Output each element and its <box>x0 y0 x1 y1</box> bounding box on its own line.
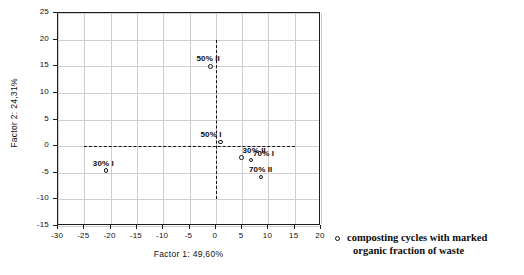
legend-open-circle-icon <box>335 236 340 241</box>
data-point-label: 50% I <box>201 130 222 139</box>
y-tick-label: 20 <box>23 34 49 43</box>
data-points-layer: 50% II50% I30% II70% I70% II30% I <box>58 13 319 224</box>
x-tick-mark <box>110 225 111 229</box>
x-tick-mark <box>189 225 190 229</box>
x-tick-mark <box>267 225 268 229</box>
legend-label-line-2: organic fraction of waste <box>347 245 487 258</box>
data-point <box>104 168 109 173</box>
data-point-label: 50% II <box>197 54 220 63</box>
x-tick-mark <box>215 225 216 229</box>
y-tick-label: -10 <box>23 193 49 202</box>
data-point <box>208 64 213 69</box>
data-point-label: 70% I <box>253 149 274 158</box>
y-tick-label: 0 <box>23 140 49 149</box>
y-tick-label: 15 <box>23 60 49 69</box>
x-tick-mark <box>294 225 295 229</box>
y-tick-mark <box>53 225 57 226</box>
y-axis-title: Factor 2: 24,31% <box>9 48 19 178</box>
y-tick-mark <box>53 65 57 66</box>
y-tick-mark <box>53 198 57 199</box>
legend-label: composting cycles with marked organic fr… <box>347 232 487 257</box>
y-tick-mark <box>53 172 57 173</box>
data-point <box>249 158 254 163</box>
gridline-vertical <box>321 13 322 224</box>
y-tick-mark <box>53 39 57 40</box>
y-tick-label: 25 <box>23 7 49 16</box>
x-tick-label: 20 <box>305 231 335 240</box>
data-point <box>239 155 244 160</box>
x-tick-mark <box>136 225 137 229</box>
data-point-label: 70% II <box>249 165 272 174</box>
y-tick-mark <box>53 119 57 120</box>
scatter-plot-figure: Factor 2: 24,31% Factor 1: 49,60% 50% II… <box>0 0 524 275</box>
y-tick-label: -5 <box>23 167 49 176</box>
x-tick-mark <box>83 225 84 229</box>
plot-area: 50% II50% I30% II70% I70% II30% I <box>57 12 320 225</box>
x-tick-mark <box>241 225 242 229</box>
legend: composting cycles with marked organic fr… <box>335 232 521 257</box>
data-point <box>218 140 223 145</box>
y-tick-label: 5 <box>23 114 49 123</box>
x-tick-mark <box>320 225 321 229</box>
y-tick-mark <box>53 145 57 146</box>
x-tick-mark <box>162 225 163 229</box>
x-axis-title: Factor 1: 49,60% <box>57 249 320 259</box>
y-tick-mark <box>53 12 57 13</box>
legend-label-line-1: composting cycles with marked <box>347 232 487 243</box>
y-tick-mark <box>53 92 57 93</box>
x-tick-mark <box>57 225 58 229</box>
y-tick-label: -15 <box>23 220 49 229</box>
data-point <box>259 175 264 180</box>
data-point-label: 30% I <box>93 159 114 168</box>
y-tick-label: 10 <box>23 87 49 96</box>
